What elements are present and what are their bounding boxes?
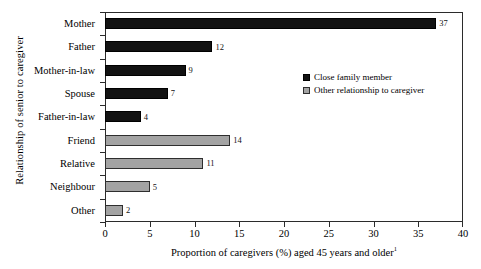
bar-row: 5 (105, 175, 463, 198)
y-axis-category-labels: MotherFatherMother-in-lawSpouseFather-in… (0, 12, 99, 222)
x-axis-title-footnote-marker: 1 (394, 245, 397, 252)
x-axis-tick-label: 25 (309, 227, 349, 241)
bar-neighbour (105, 181, 150, 192)
bar-value-label: 37 (439, 19, 448, 28)
x-axis-tick-label: 0 (85, 227, 125, 241)
x-axis-tick-label: 35 (398, 227, 438, 241)
bar-row: 37 (105, 12, 463, 35)
bar-value-label: 11 (206, 159, 214, 168)
legend-swatch-icon (303, 74, 310, 81)
y-axis-label-mother: Mother (0, 12, 99, 35)
bar-spouse (105, 88, 168, 99)
y-axis-label-other: Other (0, 199, 99, 222)
bar-father (105, 41, 212, 52)
y-axis-label-father: Father (0, 35, 99, 58)
x-axis-tick-label: 5 (130, 227, 170, 241)
y-axis-label-father-in-law: Father-in-law (0, 105, 99, 128)
y-axis-label-spouse: Spouse (0, 82, 99, 105)
bar-other (105, 205, 123, 216)
bar-friend (105, 135, 230, 146)
x-axis-tick-label: 30 (354, 227, 394, 241)
bar-value-label: 2 (126, 206, 130, 215)
bar-row: 12 (105, 35, 463, 58)
x-axis-tick-label: 40 (443, 227, 481, 241)
y-axis-label-neighbour: Neighbour (0, 175, 99, 198)
bar-mother (105, 18, 436, 29)
bar-row: 2 (105, 199, 463, 222)
y-axis-label-friend: Friend (0, 129, 99, 152)
bar-value-label: 5 (153, 183, 157, 192)
x-axis-title: Proportion of caregivers (%) aged 45 yea… (105, 245, 463, 258)
legend-label: Close family member (314, 73, 392, 82)
bar-row: 4 (105, 105, 463, 128)
legend-label: Other relationship to caregiver (314, 86, 424, 95)
x-axis-tick-labels: 0510152025303540 (105, 227, 463, 241)
legend: Close family memberOther relationship to… (303, 72, 424, 98)
x-axis-tick-label: 10 (175, 227, 215, 241)
x-axis-tick-label: 15 (219, 227, 259, 241)
legend-item: Close family member (303, 72, 424, 83)
bar-value-label: 7 (171, 89, 175, 98)
bar-value-label: 12 (215, 43, 224, 52)
bar-value-label: 4 (144, 113, 148, 122)
bars-container: 3712974141152 (105, 12, 463, 222)
bar-value-label: 14 (233, 136, 242, 145)
legend-item: Other relationship to caregiver (303, 85, 424, 96)
bar-row: 11 (105, 152, 463, 175)
x-axis-tick-label: 20 (264, 227, 304, 241)
bar-relative (105, 158, 203, 169)
bar-father-in-law (105, 111, 141, 122)
bar-mother-in-law (105, 65, 186, 76)
bar-row: 14 (105, 129, 463, 152)
x-axis-title-text: Proportion of caregivers (%) aged 45 yea… (171, 247, 394, 258)
legend-swatch-icon (303, 87, 310, 94)
bar-chart: Relationship of senior to caregiver Moth… (0, 0, 481, 269)
bar-value-label: 9 (189, 66, 193, 75)
y-axis-label-mother-in-law: Mother-in-law (0, 59, 99, 82)
y-axis-label-relative: Relative (0, 152, 99, 175)
